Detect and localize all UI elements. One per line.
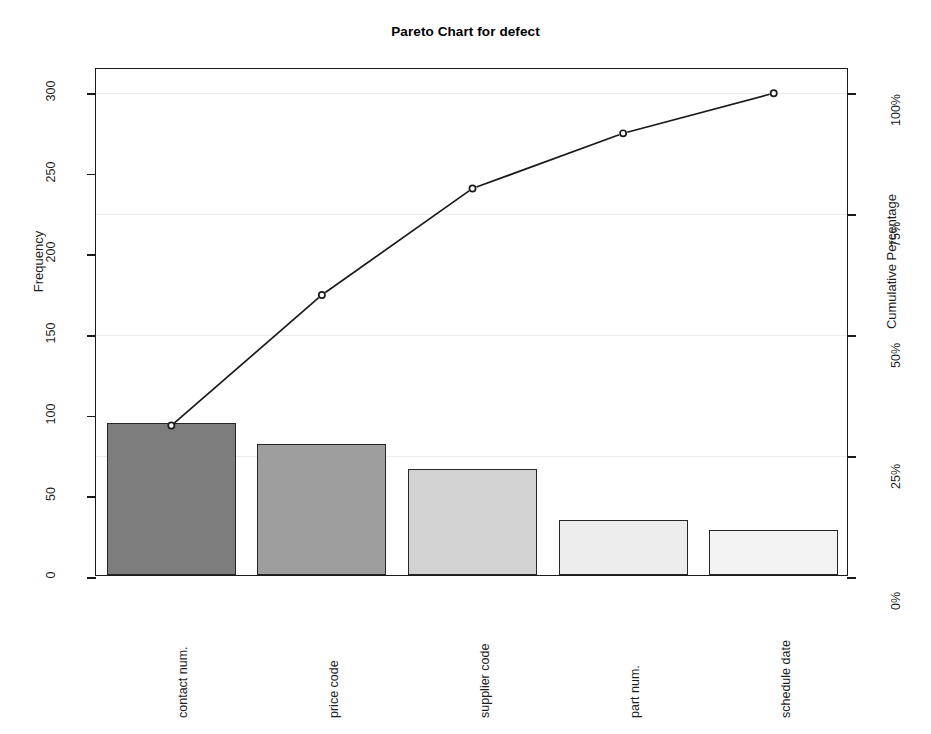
y-tick-label: 100 xyxy=(44,384,58,444)
y2-tick-mark xyxy=(847,456,856,458)
y-tick-mark xyxy=(87,416,96,418)
cumulative-line-segment xyxy=(174,298,318,423)
cumulative-point-marker xyxy=(771,90,777,96)
x-category-label: part num. xyxy=(628,665,642,718)
x-category-label: schedule date xyxy=(779,640,793,718)
cumulative-point-marker xyxy=(620,130,626,136)
y-tick-mark xyxy=(87,254,96,256)
cumulative-line xyxy=(96,69,847,575)
y-tick-mark xyxy=(87,174,96,176)
cumulative-point-marker xyxy=(168,422,174,428)
y-tick-label: 250 xyxy=(44,142,58,202)
y2-tick-label: 25% xyxy=(889,419,903,489)
y-tick-mark xyxy=(87,577,96,579)
x-category-label: supplier code xyxy=(478,644,492,718)
y2-tick-label: 50% xyxy=(889,298,903,368)
y-tick-label: 150 xyxy=(44,303,58,363)
y-tick-label: 0 xyxy=(44,545,58,605)
cumulative-line-segment xyxy=(627,94,769,132)
y2-tick-mark xyxy=(847,335,856,337)
chart-title: Pareto Chart for defect xyxy=(0,24,931,39)
y2-tick-mark xyxy=(847,577,856,579)
y-tick-label: 300 xyxy=(44,61,58,121)
y2-tick-mark xyxy=(847,93,856,95)
cumulative-line-segment xyxy=(325,191,469,293)
pareto-chart: Pareto Chart for defect Frequency Cumula… xyxy=(0,0,931,734)
y-tick-mark xyxy=(87,335,96,337)
x-category-label: contact num. xyxy=(176,646,190,718)
y2-tick-label: 0% xyxy=(889,540,903,610)
cumulative-point-marker xyxy=(469,185,475,191)
y-tick-mark xyxy=(87,496,96,498)
x-category-label: price code xyxy=(327,660,341,718)
y-tick-label: 50 xyxy=(44,464,58,524)
y2-tick-label: 75% xyxy=(889,177,903,247)
y2-tick-label: 100% xyxy=(889,56,903,126)
cumulative-line-segment xyxy=(476,135,619,187)
y-tick-label: 200 xyxy=(44,222,58,282)
plot-area xyxy=(95,68,848,576)
cumulative-point-marker xyxy=(319,292,325,298)
y-tick-mark xyxy=(87,93,96,95)
y2-tick-mark xyxy=(847,214,856,216)
